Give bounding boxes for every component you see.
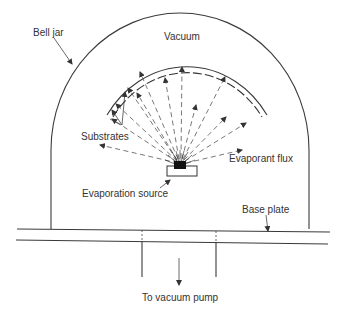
substrates-leaders	[110, 92, 125, 125]
base-plate	[16, 229, 330, 244]
source-leader	[160, 180, 170, 188]
label-evaporation-source: Evaporation source	[82, 188, 169, 199]
substrates	[107, 67, 267, 117]
label-substrates: Substrates	[81, 131, 129, 142]
bell-jar-leader	[54, 38, 72, 64]
label-vacuum: Vacuum	[164, 31, 200, 42]
label-bell-jar: Bell jar	[33, 27, 64, 38]
vacuum-evaporation-diagram: Bell jar Vacuum Substrates Evaporant flu…	[0, 0, 343, 318]
label-to-vacuum-pump: To vacuum pump	[142, 292, 219, 303]
label-base-plate: Base plate	[242, 204, 290, 215]
base-plate-leader	[266, 215, 268, 231]
label-evaporant-flux: Evaporant flux	[229, 153, 293, 164]
